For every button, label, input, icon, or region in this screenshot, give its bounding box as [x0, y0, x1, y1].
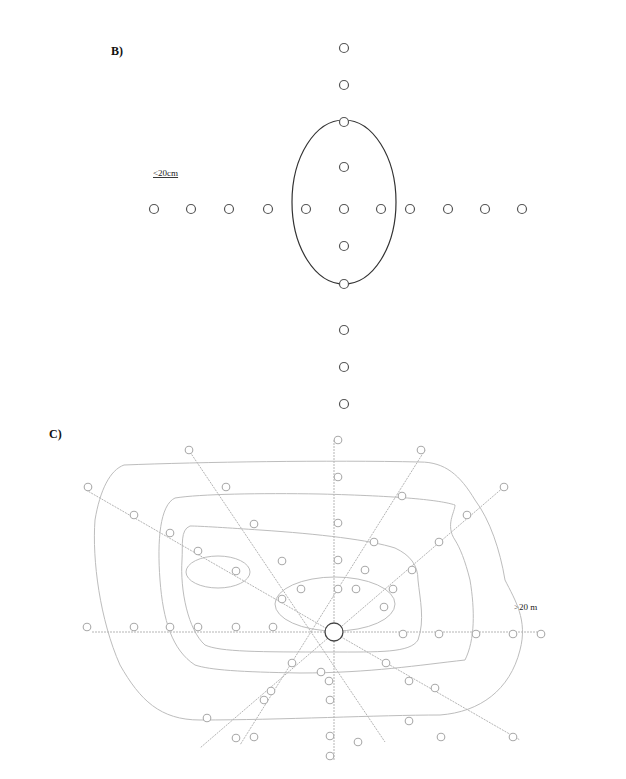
sample-point	[340, 242, 349, 251]
sample-point	[269, 623, 277, 631]
sample-point	[334, 556, 342, 564]
sample-point	[334, 585, 342, 593]
sample-point	[537, 630, 545, 638]
sample-point	[481, 205, 490, 214]
sample-point	[130, 511, 138, 519]
sample-point	[84, 483, 92, 491]
sample-point	[297, 585, 305, 593]
sample-point	[232, 623, 240, 631]
panel-b: B) <20cm	[111, 44, 527, 409]
sample-point	[405, 717, 413, 725]
panel-b-points	[150, 44, 527, 409]
sample-point	[380, 603, 388, 611]
sample-point	[340, 205, 349, 214]
sample-point	[334, 436, 342, 444]
sample-point	[444, 205, 453, 214]
panel-b-label: B)	[111, 44, 123, 58]
sample-point	[267, 687, 275, 695]
sample-point	[382, 659, 390, 667]
sample-point	[232, 567, 240, 575]
sample-point	[302, 205, 311, 214]
sample-point	[340, 81, 349, 90]
sample-point	[500, 483, 508, 491]
panel-c-label: C)	[49, 427, 62, 441]
sample-point	[166, 529, 174, 537]
sample-point	[325, 677, 333, 685]
sample-point	[370, 538, 378, 546]
panel-c-points	[83, 436, 545, 760]
sample-point	[340, 400, 349, 409]
contour-second	[159, 494, 473, 673]
sample-point	[405, 677, 413, 685]
sample-point	[334, 473, 342, 481]
sample-point	[232, 734, 240, 742]
sample-point	[437, 733, 445, 741]
sample-point	[317, 668, 325, 676]
sample-point	[225, 205, 234, 214]
figure: B) <20cm C) >20 m	[0, 0, 626, 779]
panel-c-transects	[86, 440, 545, 760]
sample-point	[472, 630, 480, 638]
sample-point	[417, 446, 425, 454]
sample-point	[264, 205, 273, 214]
sample-point	[340, 44, 349, 53]
sample-point	[408, 566, 416, 574]
sample-point	[340, 326, 349, 335]
sample-point	[431, 684, 439, 692]
sample-point	[278, 557, 286, 565]
sample-point	[399, 630, 407, 638]
sample-point	[340, 280, 349, 289]
sample-point	[203, 714, 211, 722]
sample-point	[406, 205, 415, 214]
sample-point	[435, 538, 443, 546]
sampling-ellipse	[292, 120, 396, 284]
sample-point	[334, 519, 342, 527]
sample-point	[83, 623, 91, 631]
sample-point	[509, 630, 517, 638]
sample-point	[194, 547, 202, 555]
center-point	[325, 623, 343, 641]
sample-point	[326, 732, 334, 740]
transect-diagonal-nw-se	[86, 490, 520, 740]
sample-point	[518, 205, 527, 214]
sample-point	[340, 163, 349, 172]
transect-diagonal-ne-sw	[200, 486, 505, 748]
sample-point	[326, 752, 334, 760]
sample-point	[288, 659, 296, 667]
sample-point	[389, 585, 397, 593]
sample-point	[260, 696, 268, 704]
sample-point	[250, 733, 258, 741]
contour-outer	[94, 461, 522, 720]
sample-point	[278, 595, 286, 603]
sample-point	[398, 492, 406, 500]
panel-b-scale-label: <20cm	[153, 168, 178, 178]
contour-inner-left	[186, 556, 250, 588]
sample-point	[187, 205, 196, 214]
sample-point	[340, 118, 349, 127]
sample-point	[509, 733, 517, 741]
sample-point	[326, 696, 334, 704]
sample-point	[166, 623, 174, 631]
sample-point	[435, 630, 443, 638]
sample-point	[185, 446, 193, 454]
sample-point	[222, 483, 230, 491]
sample-point	[150, 205, 159, 214]
sample-point	[250, 520, 258, 528]
sample-point	[463, 511, 471, 519]
sample-point	[361, 566, 369, 574]
sample-point	[377, 205, 386, 214]
sample-point	[194, 623, 202, 631]
sample-point	[354, 738, 362, 746]
sample-point	[130, 623, 138, 631]
panel-c: C) >20 m	[49, 427, 545, 760]
sample-point	[340, 363, 349, 372]
sample-point	[352, 585, 360, 593]
